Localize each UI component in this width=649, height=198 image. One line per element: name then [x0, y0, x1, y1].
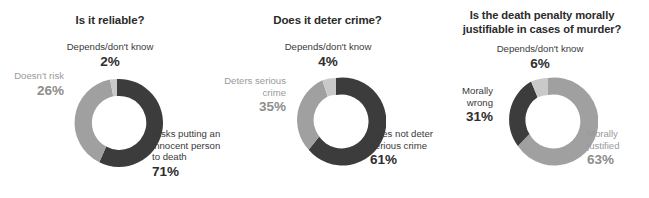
callout-percent: 71% [152, 164, 230, 180]
callout-depends-dont-know: Depends/don't know 6% [460, 43, 620, 72]
donut-segment-deters-serious-crime [297, 80, 328, 150]
callout-percent: 63% [587, 152, 649, 168]
callout-percent: 26% [0, 83, 64, 99]
callout-doesnt-risk: Doesn't risk 26% [0, 70, 64, 99]
callout-label: Morally justified [587, 128, 649, 151]
chart-title: Does it deter crime? [220, 13, 435, 27]
donut-svg [498, 72, 598, 172]
callout-label: Depends/don't know [285, 41, 372, 52]
donut-chart-morally-justifiable [498, 72, 598, 172]
callout-label: Deters serious crime [216, 75, 286, 98]
callout-morally-justified: Morally justified 63% [587, 128, 649, 168]
donut-segment-morally-wrong [509, 82, 537, 147]
callout-percent: 31% [435, 109, 493, 125]
donut-chart-figure: Is it reliable? Depends/don't know 2% Do… [0, 0, 649, 198]
callout-deters-serious-crime: Deters serious crime 35% [216, 75, 286, 115]
chart-panel-morally-justifiable: Is the death penalty morally justifiable… [435, 0, 649, 198]
chart-panel-does-it-deter-crime: Does it deter crime? Depends/don't know … [220, 0, 435, 198]
callout-depends-dont-know: Depends/don't know 2% [30, 41, 190, 70]
callout-percent: 4% [248, 54, 408, 70]
callout-morally-wrong: Morally wrong 31% [435, 85, 493, 125]
callout-risks-putting-innocent-person-to-death: Risks putting an innocent person to deat… [152, 128, 230, 180]
callout-label: Doesn't risk [14, 70, 64, 81]
chart-title: Is it reliable? [0, 13, 220, 27]
callout-label: Risks putting an innocent person to deat… [152, 128, 230, 163]
callout-label: Depends/don't know [67, 41, 154, 52]
donut-segments [509, 78, 598, 166]
chart-title-line-1: Is the death penalty morally [435, 8, 649, 22]
callout-depends-dont-know: Depends/don't know 4% [248, 41, 408, 70]
chart-title: Is the death penalty morally justifiable… [435, 8, 649, 36]
callout-label: Depends/don't know [497, 43, 584, 54]
callout-percent: 2% [30, 54, 190, 70]
donut-segments [75, 79, 163, 167]
callout-percent: 35% [216, 99, 286, 115]
callout-percent: 6% [460, 56, 620, 72]
chart-panel-is-it-reliable: Is it reliable? Depends/don't know 2% Do… [0, 0, 220, 198]
callout-label: Morally wrong [435, 85, 493, 108]
chart-title-line-2: justifiable in cases of murder? [435, 22, 649, 36]
